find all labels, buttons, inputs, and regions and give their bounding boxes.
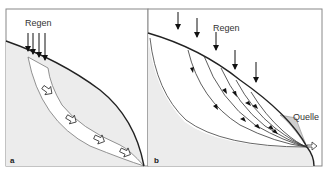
rain-label-b: Regen: [213, 23, 240, 33]
panel-b: Regen Quelle b: [148, 9, 322, 166]
panel-a: Regen a: [6, 9, 148, 166]
panel-label-a: a: [10, 156, 15, 165]
diagram: Regen a: [0, 0, 329, 173]
rain-label-a: Regen: [25, 18, 52, 28]
panel-label-b: b: [154, 156, 159, 165]
spring-label: Quelle: [293, 112, 319, 122]
